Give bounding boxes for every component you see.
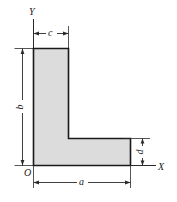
dimension-a-arrow-right (125, 181, 131, 185)
dimension-a-arrow-left (34, 181, 40, 185)
dimension-a-label: a (79, 176, 84, 187)
dimension-b-arrow-top (21, 49, 25, 55)
dimension-c-label: c (48, 27, 53, 38)
dimension-b-label: b (14, 105, 25, 110)
dimension-c-arrow-right (63, 32, 69, 36)
dimension-d-arrow-top (141, 139, 145, 144)
figure-canvas: Y c b (0, 0, 177, 202)
x-axis-group: X (131, 161, 166, 172)
dimension-c-group: c (34, 26, 69, 48)
dimension-b-arrow-bottom (21, 160, 25, 166)
dimension-a-group: a (34, 166, 131, 189)
y-axis-group: Y (29, 6, 36, 48)
l-section-shape (34, 49, 131, 166)
dimension-d-arrow-bottom (141, 161, 145, 166)
y-axis-label: Y (29, 6, 36, 17)
x-axis-label: X (157, 161, 165, 172)
l-shape-group (34, 49, 131, 166)
origin-label: O (24, 167, 31, 178)
l-section-figure: Y c b (0, 0, 177, 202)
dimension-c-arrow-left (34, 32, 40, 36)
